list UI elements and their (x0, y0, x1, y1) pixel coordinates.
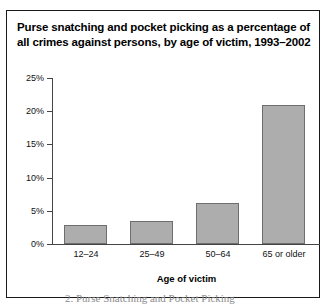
plot-area: 0%5%10%15%20%25% 12–2425–4950–6465 or ol… (52, 78, 321, 254)
x-tick-label: 50–64 (185, 249, 251, 259)
y-tick-label: 0% (31, 239, 44, 249)
bar[interactable] (196, 203, 239, 244)
x-tick-label: 25–49 (119, 249, 185, 259)
chart-title: Purse snatching and pocket picking as a … (17, 20, 313, 49)
bar[interactable] (130, 221, 173, 244)
bar-slot: 65 or older (251, 78, 317, 244)
y-tick-label: 25% (26, 73, 44, 83)
bar-slot: 12–24 (53, 78, 119, 244)
bar[interactable] (64, 225, 107, 244)
bar[interactable] (262, 105, 305, 244)
x-axis-label: Age of victim (52, 273, 321, 284)
y-tick-mark (47, 178, 52, 179)
y-tick-mark (47, 211, 52, 212)
x-tick-label: 65 or older (251, 249, 317, 259)
x-axis-line (52, 244, 320, 245)
y-tick-mark (47, 111, 52, 112)
x-tick-label: 12–24 (53, 249, 119, 259)
y-tick-mark (47, 144, 52, 145)
page-bleed-text: 2. Purse Snatching and Pocket Picking (65, 292, 328, 304)
y-tick-mark (47, 78, 52, 79)
bar-slot: 25–49 (119, 78, 185, 244)
y-tick-label: 10% (26, 173, 44, 183)
y-tick-mark (47, 244, 52, 245)
y-tick-label: 20% (26, 106, 44, 116)
bar-series: 12–2425–4950–6465 or older (53, 78, 320, 244)
chart-figure: Purse snatching and pocket picking as a … (6, 10, 320, 298)
bar-slot: 50–64 (185, 78, 251, 244)
y-tick-label: 5% (31, 206, 44, 216)
y-tick-label: 15% (26, 139, 44, 149)
